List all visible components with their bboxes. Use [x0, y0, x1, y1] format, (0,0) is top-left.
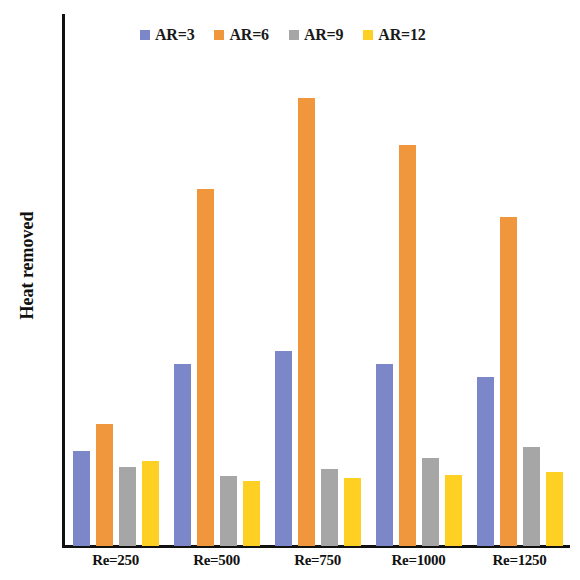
- bar: [174, 364, 191, 546]
- y-axis-title: Heat removed: [17, 176, 38, 356]
- x-axis-tick-label: Re=750: [267, 552, 368, 569]
- bar: [399, 145, 416, 546]
- bar: [298, 98, 315, 546]
- bar: [96, 424, 113, 546]
- x-axis-tick-labels: Re=250Re=500Re=750Re=1000Re=1250: [65, 552, 570, 569]
- bar-group: [469, 14, 570, 546]
- x-axis-tick-label: Re=500: [166, 552, 267, 569]
- bar: [500, 217, 517, 546]
- bar: [376, 364, 393, 546]
- bar: [220, 476, 237, 546]
- bar: [477, 377, 494, 546]
- bar: [321, 469, 338, 546]
- bar: [142, 461, 159, 546]
- bar: [119, 467, 136, 546]
- bar-chart: AR=3 AR=6 AR=9 AR=12 Heat removed 706050…: [0, 0, 580, 580]
- x-axis-tick-label: Re=1000: [368, 552, 469, 569]
- x-axis-tick-label: Re=250: [65, 552, 166, 569]
- bar-group: [267, 14, 368, 546]
- x-axis-tick-label: Re=1250: [469, 552, 570, 569]
- bar: [422, 458, 439, 546]
- bars-layer: [65, 14, 570, 546]
- bar: [73, 451, 90, 546]
- bar-group: [65, 14, 166, 546]
- bar: [523, 447, 540, 546]
- bar: [197, 189, 214, 546]
- bar: [344, 478, 361, 546]
- bar: [275, 351, 292, 546]
- bar: [243, 481, 260, 546]
- bar-group: [166, 14, 267, 546]
- bar: [445, 475, 462, 546]
- bar-group: [368, 14, 469, 546]
- bar: [546, 472, 563, 546]
- plot-area: 706050403020100: [62, 14, 570, 546]
